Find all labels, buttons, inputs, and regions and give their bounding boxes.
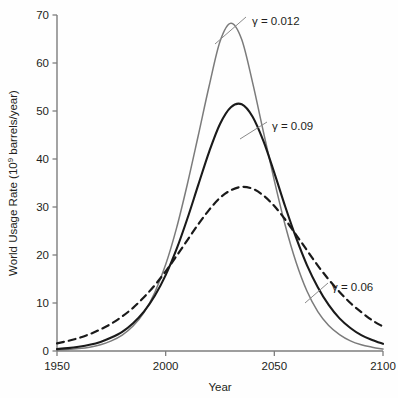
y-axis-tick-label: 0 bbox=[43, 345, 49, 357]
y-axis-tick-label: 70 bbox=[36, 9, 49, 21]
y-axis-tick-label: 50 bbox=[36, 105, 49, 117]
x-axis-title: Year bbox=[208, 381, 231, 393]
y-axis-title-suffix: barrels/year) bbox=[7, 90, 19, 158]
y-axis-tick-label: 60 bbox=[36, 57, 49, 69]
y-axis-tick-label: 30 bbox=[36, 201, 49, 213]
y-axis-tick-label: 40 bbox=[36, 153, 49, 165]
gamma-006-annotation-label: γ = 0.06 bbox=[332, 281, 373, 293]
chart-background bbox=[0, 0, 398, 398]
x-axis-tick-label: 1950 bbox=[44, 360, 70, 372]
usage-rate-line-chart: γ = 0.012γ = 0.09γ = 0.06 01020304050607… bbox=[0, 0, 398, 398]
x-axis-tick-label: 2100 bbox=[370, 360, 396, 372]
y-axis-tick-label: 10 bbox=[36, 297, 49, 309]
y-axis-title: World Usage Rate (109 barrels/year) bbox=[6, 90, 19, 276]
y-axis-tick-label: 20 bbox=[36, 249, 49, 261]
gamma-0012-annotation-label: γ = 0.012 bbox=[252, 15, 300, 27]
x-axis-tick-label: 2050 bbox=[262, 360, 288, 372]
x-axis-tick-label: 2000 bbox=[153, 360, 179, 372]
gamma-009-annotation-label: γ = 0.09 bbox=[272, 120, 313, 132]
chart-figure: γ = 0.012γ = 0.09γ = 0.06 01020304050607… bbox=[0, 0, 398, 398]
y-axis-title-prefix: World Usage Rate (10 bbox=[7, 162, 19, 276]
